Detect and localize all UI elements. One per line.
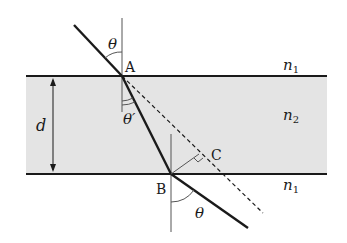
exit-ray (171, 174, 248, 228)
refracted-angle-label: θ′ (123, 110, 136, 128)
point-a-label: A (124, 59, 136, 75)
refraction-diagram: θ A θ′ d C B θ n1 n2 n1 (0, 0, 347, 243)
angle-arc-theta-b (171, 190, 194, 202)
incident-angle-label: θ (108, 35, 117, 53)
thickness-label: d (36, 116, 46, 135)
point-b-label: B (156, 181, 166, 197)
medium-bottom-label: n1 (283, 176, 299, 195)
slab-medium-n2 (26, 76, 327, 174)
medium-top-label: n1 (283, 56, 299, 75)
point-c-label: C (211, 147, 222, 163)
exit-angle-label: θ (195, 204, 204, 222)
